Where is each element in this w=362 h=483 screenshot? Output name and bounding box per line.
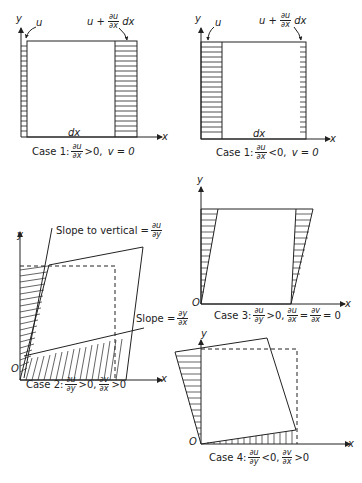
slope-vertical-annotation: Slope to vertical = ∂u∂y [56,222,163,239]
u-label: u [36,18,42,28]
u-label: u [215,18,221,28]
case4-caption: Case 4: ∂u∂y <0, ∂v∂x >0 [209,449,309,466]
case1b-caption: Case 1: ∂u∂x <0, v = 0 [216,144,319,161]
diagram-canvas [0,0,362,483]
case1b-panel [201,27,330,139]
y-axis-label: y [197,175,203,185]
x-axis-label: x [348,439,354,449]
slope-annotation: Slope = ∂y∂x [136,310,189,327]
x-axis-label: x [330,134,336,144]
x-axis-label: x [345,299,351,309]
origin-label: O [11,364,19,374]
case2-panel [20,228,162,380]
dx-label: dx [253,129,265,139]
y-axis-label: y [201,329,207,339]
x-axis-label: x [161,374,167,384]
x-axis-label: x [162,132,168,142]
origin-label: O [189,437,197,447]
u-plus-label: u + ∂u∂x dx [87,13,134,30]
origin-label: O [192,298,200,308]
u-plus-label: u + ∂u∂x dx [259,12,306,29]
case4-panel [175,338,350,444]
y-axis-label: y [195,14,201,24]
case2-caption: Case 2: ∂u∂y >0, ∂v∂x >0 [26,376,126,393]
case1a-caption: Case 1: ∂u∂x >0, v = 0 [32,143,135,160]
case3-caption: Case 3: ∂u∂y >0, ∂u∂x = ∂v∂x = 0 [214,307,341,324]
y-axis-label: y [17,230,23,240]
case3-panel [201,187,345,304]
case1a-panel [21,27,162,137]
y-axis-label: y [16,14,22,24]
dx-label: dx [68,128,80,138]
